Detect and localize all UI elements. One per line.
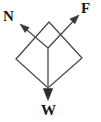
force-diagram-canvas: N F W <box>0 0 101 122</box>
vector-label-n: N <box>3 9 14 24</box>
vector-w-arrowhead <box>43 89 53 101</box>
vector-f-shaft <box>48 19 76 48</box>
vector-label-f: F <box>81 1 90 16</box>
vector-label-w: W <box>41 103 56 118</box>
